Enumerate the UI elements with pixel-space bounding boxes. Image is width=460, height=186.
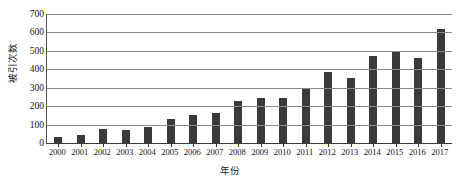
y-axis-tick-label: 600: [14, 28, 44, 36]
gridline: [47, 14, 452, 15]
x-axis-tick-label: 2009: [249, 147, 272, 161]
bar: [189, 115, 197, 143]
x-axis-tick-label: 2014: [361, 147, 384, 161]
x-axis-tick-label: 2004: [136, 147, 159, 161]
x-axis-tick-label: 2015: [384, 147, 407, 161]
bar: [234, 101, 242, 143]
x-axis-tick-label: 2008: [226, 147, 249, 161]
bar: [212, 113, 220, 143]
x-axis-tick-label: 2011: [294, 147, 317, 161]
y-axis-tick-label: 500: [14, 47, 44, 55]
gridline: [47, 88, 452, 89]
bar: [324, 72, 332, 143]
bar: [392, 52, 400, 143]
x-axis-tick-label: 2016: [406, 147, 429, 161]
x-axis-tick-label: 2003: [114, 147, 137, 161]
bar: [77, 135, 85, 143]
bar: [257, 98, 265, 143]
x-axis-tick-label: 2013: [339, 147, 362, 161]
gridline: [47, 32, 452, 33]
x-axis-tick-label: 2012: [316, 147, 339, 161]
x-axis-tick-label: 2001: [69, 147, 92, 161]
x-axis-title: 年份: [0, 163, 460, 177]
bar: [414, 58, 422, 143]
x-axis-tick-label: 2005: [159, 147, 182, 161]
y-axis-tick-label: 700: [14, 10, 44, 18]
plot-area: [46, 14, 452, 144]
bar: [167, 119, 175, 143]
y-axis-tick-label: 0: [14, 139, 44, 147]
y-axis-tick-label: 400: [14, 65, 44, 73]
x-axis-tick-label: 2017: [429, 147, 452, 161]
bar: [302, 89, 310, 143]
x-axis-tick-label: 2000: [46, 147, 69, 161]
gridline: [47, 106, 452, 107]
y-axis-tick-label: 300: [14, 84, 44, 92]
x-axis-tick-label: 2007: [204, 147, 227, 161]
y-axis-tick-labels: 0100200300400500600700: [14, 10, 44, 144]
y-axis-tick-label: 200: [14, 102, 44, 110]
x-axis-tick-label: 2006: [181, 147, 204, 161]
bar: [99, 129, 107, 143]
gridline: [47, 125, 452, 126]
bar: [437, 29, 445, 143]
x-axis-tick-label: 2002: [91, 147, 114, 161]
gridline: [47, 51, 452, 52]
y-axis-tick-label: 100: [14, 121, 44, 129]
bar: [279, 98, 287, 143]
bar: [122, 130, 130, 143]
gridline: [47, 69, 452, 70]
bar: [144, 127, 152, 143]
x-axis-tick-label: 2010: [271, 147, 294, 161]
x-axis-tick-labels: 2000200120022003200420052006200720082009…: [46, 147, 451, 161]
citation-bar-chart: 被引次数 0100200300400500600700 200020012002…: [0, 0, 460, 186]
